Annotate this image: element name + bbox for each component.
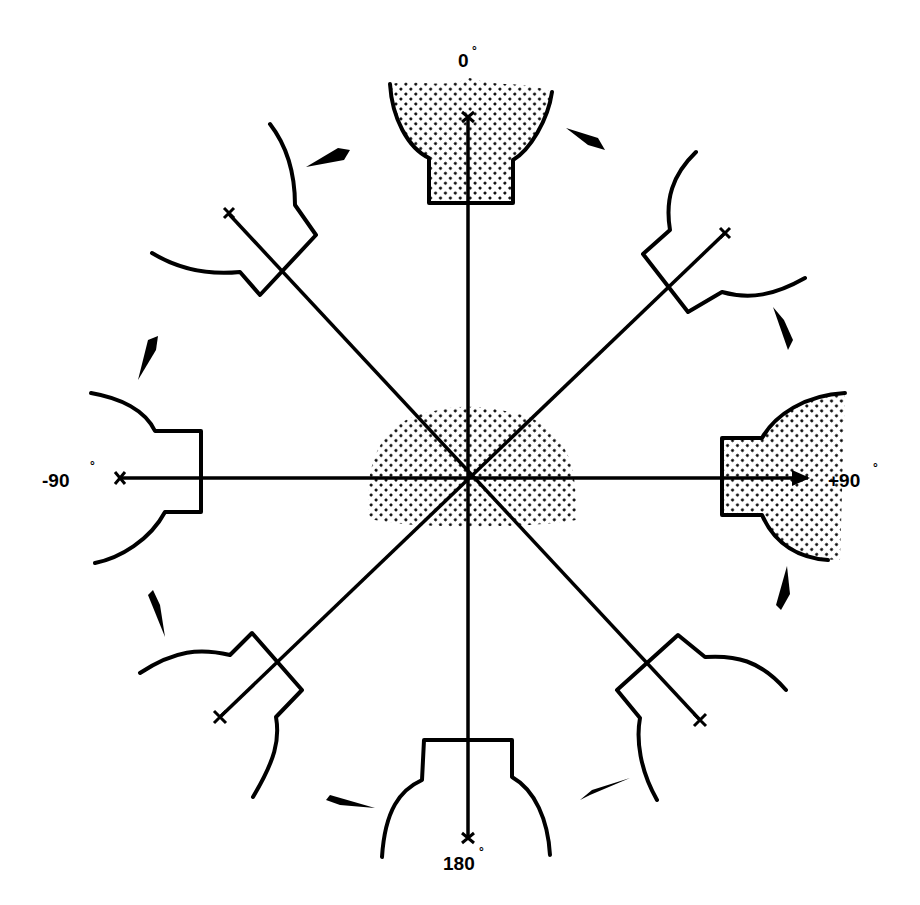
shape-plus90-deg [722,393,845,560]
label-plus90-deg: +90 [828,470,860,491]
arrow-right-upper-icon [773,307,793,350]
arrow-bottom-left-icon [326,795,375,808]
degree-mark: ° [479,845,484,859]
degree-mark: ° [873,461,878,475]
axis-lines [118,115,808,840]
arrow-bottom-right-icon [580,778,630,800]
arrow-left-upper-icon [138,336,158,380]
arrow-right-lower-icon [776,566,790,610]
arrow-left-lower-icon [148,590,165,637]
orientation-diagram: 0 ° +90 ° 180 ° -90 ° [0,0,920,905]
arrow-top-right-icon [566,128,605,150]
degree-mark: ° [90,459,95,473]
label-minus90-deg: -90 [42,470,69,491]
degree-mark: ° [472,44,477,58]
center-shaded-region [368,407,576,527]
label-0-deg: 0 [458,50,469,71]
shape-0-deg [390,78,552,203]
label-180-deg: 180 [443,853,475,874]
arrow-top-left-icon [306,148,350,167]
